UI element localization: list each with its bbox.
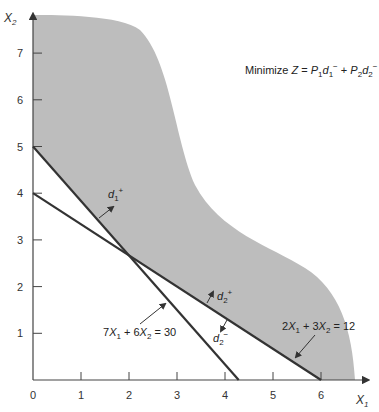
y-axis-title: X2 <box>3 11 17 27</box>
y-tick-label: 2 <box>17 281 23 293</box>
y-tick-label: 1 <box>17 327 23 339</box>
y-tick-label: 7 <box>17 47 23 59</box>
x-tick-label: 1 <box>78 389 84 401</box>
x-tick-label: 0 <box>30 389 36 401</box>
constraint-1-label: 7X1 + 6X2 = 30 <box>103 326 176 341</box>
constraint-1-pointer <box>140 304 165 324</box>
goal-programming-graph: 01234561234567X1X2 Minimize Z = P1d1− + … <box>0 0 379 412</box>
d2-minus-label: d2− <box>213 330 229 347</box>
y-tick-label: 4 <box>17 187 23 199</box>
y-tick-label: 5 <box>17 141 23 153</box>
x-tick-label: 6 <box>318 389 324 401</box>
x-tick-label: 4 <box>222 389 228 401</box>
y-tick-label: 3 <box>17 234 23 246</box>
x-tick-label: 2 <box>126 389 132 401</box>
x-tick-label: 5 <box>270 389 276 401</box>
y-tick-label: 6 <box>17 94 23 106</box>
x-tick-label: 3 <box>174 389 180 401</box>
x-axis-title: X1 <box>355 393 368 409</box>
objective-function: Minimize Z = P1d1− + P2d2− <box>245 62 378 79</box>
